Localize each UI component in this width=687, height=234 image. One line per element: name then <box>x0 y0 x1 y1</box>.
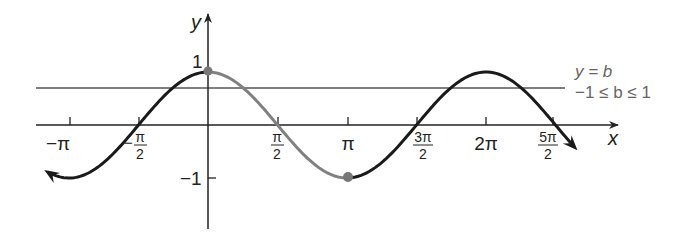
x-tick-label-neg-half-pi: − π 2 <box>124 129 147 162</box>
y-axis-label: y <box>189 11 202 33</box>
x-axis-label: x <box>607 127 619 149</box>
reference-line-label: y = b <box>574 62 612 81</box>
svg-text:−: − <box>124 134 133 151</box>
svg-text:2: 2 <box>273 146 281 162</box>
x-tick-label-five-half-pi: 5π 2 <box>538 129 558 162</box>
x-tick-label-two-pi: 2π <box>474 133 498 154</box>
y-tick-label-1: 1 <box>192 51 203 72</box>
point-max-0-1 <box>204 67 213 76</box>
svg-text:2: 2 <box>419 146 427 162</box>
x-tick-label-three-half-pi: 3π 2 <box>413 129 433 162</box>
svg-text:π: π <box>272 129 282 145</box>
y-tick-label-neg1: −1 <box>180 168 202 189</box>
x-tick-label-pi: π <box>341 133 354 154</box>
svg-text:2: 2 <box>136 146 144 162</box>
x-tick-label-half-pi: π 2 <box>271 129 284 162</box>
svg-text:5π: 5π <box>539 129 557 145</box>
svg-text:3π: 3π <box>414 129 432 145</box>
reference-line-constraint: −1 ≤ b ≤ 1 <box>575 83 651 102</box>
x-tick-label-neg-pi: −π <box>46 133 70 154</box>
point-min-pi-neg1 <box>343 172 353 182</box>
cosine-graph: y x 1 −1 −π − π 2 π 2 π 3π 2 2π 5π 2 y =… <box>0 0 687 234</box>
svg-text:π: π <box>135 129 145 145</box>
svg-text:2: 2 <box>544 146 552 162</box>
